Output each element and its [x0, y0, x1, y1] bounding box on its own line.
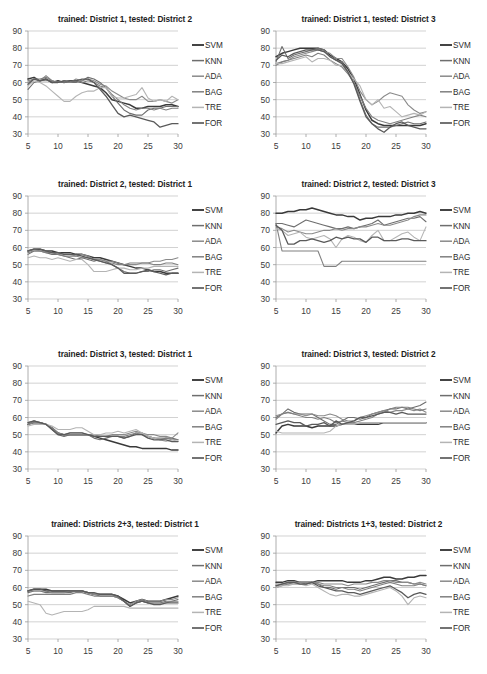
y-axis-tick-label: 50: [13, 95, 23, 105]
x-axis-tick-label: 5: [26, 646, 31, 656]
chart-panel: trained: District 2, tested: District 33…: [250, 165, 487, 335]
x-axis-tick-label: 15: [83, 476, 93, 486]
legend-label-tre: TRE: [453, 608, 470, 617]
legend-label-knn: KNN: [205, 57, 222, 66]
series-line-ada: [28, 421, 178, 438]
legend-label-for: FOR: [453, 284, 470, 293]
legend-label-knn: KNN: [453, 222, 470, 231]
legend-label-for: FOR: [453, 454, 470, 463]
chart-title: trained: District 1, tested: District 2: [0, 0, 250, 25]
legend-label-for: FOR: [453, 119, 470, 128]
x-axis-tick-label: 10: [301, 141, 311, 151]
x-axis-tick-label: 5: [26, 141, 31, 151]
legend-label-tre: TRE: [453, 438, 470, 447]
chart-title: trained: Districts 1+3, tested: District…: [250, 505, 487, 530]
legend-label-bag: BAG: [453, 423, 470, 432]
legend-label-svm: SVM: [453, 41, 471, 50]
legend-label-ada: ADA: [453, 577, 470, 586]
y-axis-tick-label: 70: [13, 225, 23, 235]
x-axis-tick-label: 15: [83, 141, 93, 151]
x-axis-tick-label: 25: [143, 646, 153, 656]
x-axis-tick-label: 10: [53, 476, 63, 486]
legend-label-svm: SVM: [453, 206, 471, 215]
x-axis-tick-label: 30: [173, 476, 183, 486]
y-axis-tick-label: 60: [13, 78, 23, 88]
chart-panel: trained: Districts 2+3, tested: District…: [0, 505, 250, 674]
x-axis-tick-label: 20: [361, 306, 371, 316]
chart-title: trained: District 2, tested: District 1: [0, 165, 250, 190]
y-axis-tick-label: 70: [13, 60, 23, 70]
legend-label-bag: BAG: [205, 593, 222, 602]
y-axis-tick-label: 90: [261, 191, 271, 201]
series-line-tre: [276, 57, 426, 117]
y-axis-tick-label: 30: [261, 294, 271, 304]
chart-panel: trained: Districts 1+3, tested: District…: [250, 505, 487, 674]
x-axis-tick-label: 30: [421, 646, 431, 656]
x-axis-tick-label: 15: [331, 646, 341, 656]
y-axis-tick-label: 60: [261, 243, 271, 253]
chart-panel: trained: District 2, tested: District 13…: [0, 165, 250, 335]
legend-label-svm: SVM: [205, 206, 223, 215]
legend-label-for: FOR: [205, 454, 222, 463]
y-axis-tick-label: 90: [261, 361, 271, 371]
y-axis-tick-label: 50: [13, 600, 23, 610]
series-line-bag: [276, 53, 426, 123]
y-axis-tick-label: 90: [261, 531, 271, 541]
chart-title: trained: District 3, tested: District 1: [0, 335, 250, 360]
legend-label-tre: TRE: [453, 103, 470, 112]
y-axis-tick-label: 70: [261, 60, 271, 70]
legend-label-ada: ADA: [205, 237, 222, 246]
plot-area: 3040506070809051015202530SVMKNNADABAGTRE…: [0, 530, 250, 662]
chart-panel: trained: District 1, tested: District 33…: [250, 0, 487, 165]
x-axis-tick-label: 20: [361, 141, 371, 151]
series-line-bag: [276, 223, 426, 266]
y-axis-tick-label: 60: [261, 583, 271, 593]
x-axis-tick-label: 25: [143, 476, 153, 486]
y-axis-tick-label: 50: [261, 430, 271, 440]
y-axis-tick-label: 30: [13, 464, 23, 474]
y-axis-tick-label: 90: [13, 26, 23, 36]
y-axis-tick-label: 30: [13, 294, 23, 304]
x-axis-tick-label: 5: [274, 476, 279, 486]
legend-label-tre: TRE: [205, 608, 222, 617]
y-axis-tick-label: 40: [13, 447, 23, 457]
legend-label-bag: BAG: [453, 88, 470, 97]
y-axis-tick-label: 50: [261, 95, 271, 105]
y-axis-tick-label: 30: [13, 634, 23, 644]
y-axis-tick-label: 30: [261, 129, 271, 139]
legend-label-for: FOR: [205, 119, 222, 128]
y-axis-tick-label: 90: [13, 361, 23, 371]
x-axis-tick-label: 10: [53, 646, 63, 656]
figure-grid: trained: District 1, tested: District 23…: [0, 0, 487, 674]
x-axis-tick-label: 10: [301, 476, 311, 486]
x-axis-tick-label: 5: [274, 306, 279, 316]
y-axis-tick-label: 80: [261, 548, 271, 558]
series-line-svm: [276, 48, 426, 125]
legend-label-tre: TRE: [205, 103, 222, 112]
plot-area: 3040506070809051015202530SVMKNNADABAGTRE…: [0, 25, 250, 157]
chart-title: trained: District 3, tested: District 2: [250, 335, 487, 360]
x-axis-tick-label: 15: [83, 646, 93, 656]
plot-area: 3040506070809051015202530SVMKNNADABAGTRE…: [250, 530, 487, 662]
x-axis-tick-label: 15: [331, 306, 341, 316]
legend-label-knn: KNN: [205, 562, 222, 571]
legend-label-tre: TRE: [205, 438, 222, 447]
legend-label-for: FOR: [205, 624, 222, 633]
x-axis-tick-label: 30: [173, 306, 183, 316]
legend-label-ada: ADA: [205, 407, 222, 416]
x-axis-tick-label: 25: [391, 306, 401, 316]
y-axis-tick-label: 40: [261, 617, 271, 627]
y-axis-tick-label: 60: [13, 583, 23, 593]
legend-label-knn: KNN: [205, 222, 222, 231]
chart-title: trained: District 1, tested: District 3: [250, 0, 487, 25]
x-axis-tick-label: 5: [26, 306, 31, 316]
x-axis-tick-label: 30: [173, 141, 183, 151]
x-axis-tick-label: 15: [331, 141, 341, 151]
x-axis-tick-label: 30: [421, 141, 431, 151]
legend-label-for: FOR: [205, 284, 222, 293]
x-axis-tick-label: 10: [301, 646, 311, 656]
y-axis-tick-label: 70: [261, 565, 271, 575]
x-axis-tick-label: 20: [113, 306, 123, 316]
x-axis-tick-label: 30: [173, 646, 183, 656]
y-axis-tick-label: 70: [13, 395, 23, 405]
